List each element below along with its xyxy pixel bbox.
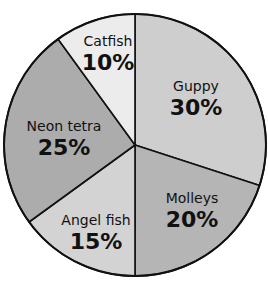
slice-label-angel-fish: Angel fish: [61, 212, 130, 228]
slice-percent-molleys: 20%: [166, 207, 219, 232]
slice-percent-neon-tetra: 25%: [38, 135, 91, 160]
pie-chart: Guppy30%Molleys20%Angel fish15%Neon tetr…: [0, 0, 268, 282]
slice-percent-catfish: 10%: [82, 50, 135, 75]
slice-label-neon-tetra: Neon tetra: [27, 118, 102, 134]
slice-label-molleys: Molleys: [166, 190, 219, 206]
slice-label-guppy: Guppy: [173, 78, 219, 94]
slice-label-catfish: Catfish: [84, 33, 133, 49]
slice-percent-guppy: 30%: [170, 95, 223, 120]
slice-percent-angel-fish: 15%: [70, 229, 123, 254]
